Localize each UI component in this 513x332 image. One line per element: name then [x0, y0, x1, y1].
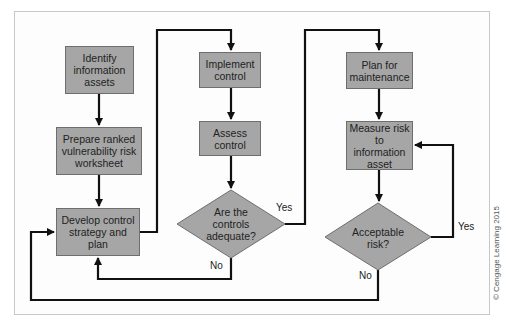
- label-acceptable-no: No: [359, 270, 372, 281]
- label-adequate-no: No: [210, 260, 223, 271]
- node-measure-risk: Measure risk to information asset: [346, 121, 413, 170]
- edge-acceptable-yes: [415, 145, 453, 237]
- node-assess-control: Assess control: [199, 121, 261, 156]
- copyright-credit: © Cengage Learning 2015: [492, 206, 501, 300]
- node-identify-assets: Identify information assets: [65, 46, 134, 94]
- label-adequate-yes: Yes: [276, 202, 292, 213]
- label-acceptable-yes: Yes: [458, 221, 474, 232]
- node-develop-strategy: Develop control strategy and plan: [56, 208, 140, 256]
- decision-controls-adequate: Are the controls adequate?: [196, 204, 266, 244]
- decision-acceptable-risk: Acceptable risk?: [343, 225, 413, 251]
- node-plan-maintenance: Plan for maintenance: [346, 52, 413, 89]
- node-implement-control: Implement control: [199, 52, 261, 88]
- node-prepare-worksheet: Prepare ranked vulnerability risk worksh…: [56, 127, 142, 175]
